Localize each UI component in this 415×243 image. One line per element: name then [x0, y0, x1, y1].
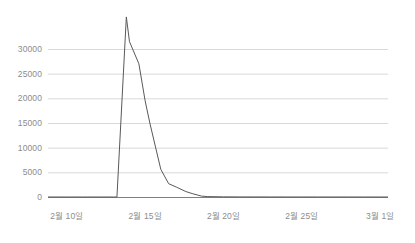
line-chart: 050001000015000200002500030000 2월 10일2월 …	[0, 0, 415, 243]
grid-lines	[48, 50, 388, 173]
series-line-1	[48, 17, 388, 197]
chart-canvas	[0, 0, 415, 243]
